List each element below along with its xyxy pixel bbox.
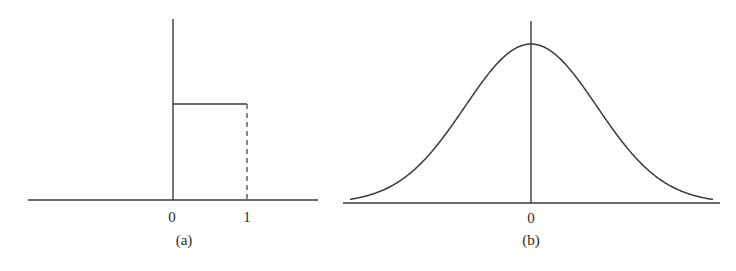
panel-b-tick-0: 0 — [527, 210, 535, 226]
panel-a-tick-0: 0 — [168, 209, 176, 225]
panel-a-uniform-density: 0 1 (a) — [28, 19, 318, 249]
panel-b-label: (b) — [522, 232, 540, 249]
figure: 0 1 (a) 0 (b) — [0, 0, 736, 271]
panel-a-label: (a) — [176, 232, 193, 249]
panel-a-tick-1: 1 — [243, 209, 251, 225]
panel-b-normal-density: 0 (b) — [343, 21, 720, 249]
